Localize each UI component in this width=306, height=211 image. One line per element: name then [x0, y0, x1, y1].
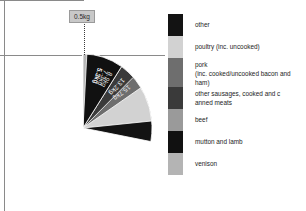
legend-label: venison — [195, 153, 217, 168]
legend-label: beef — [195, 109, 207, 124]
legend-swatch — [168, 109, 183, 131]
legend-label-line2: anned meats — [195, 98, 280, 107]
legend-label: poultry (inc. uncooked) — [195, 36, 260, 51]
legend-label-line1: poultry (inc. uncooked) — [195, 43, 260, 50]
legend-label-line1: beef — [195, 116, 207, 123]
legend-swatch — [168, 131, 183, 153]
pie-chart: 15.7kg13.2kg8.9kg7.3kg5.3kg5.3kg — [13, 53, 153, 203]
legend-label-line1: other — [195, 21, 210, 28]
legend-item[interactable]: other — [168, 14, 304, 36]
legend-swatch — [168, 58, 183, 87]
frame-border-top — [0, 0, 84, 1]
legend: otherpoultry (inc. uncooked)pork(inc. co… — [168, 14, 304, 175]
legend-swatch — [168, 87, 183, 109]
callout-leader-line — [84, 21, 85, 55]
legend-label: other — [195, 14, 210, 29]
frame-border-left-lower — [4, 55, 5, 211]
callout-venison: 0.5kg — [69, 10, 95, 23]
legend-item[interactable]: venison — [168, 153, 304, 175]
legend-swatch — [168, 153, 183, 175]
pie-svg — [13, 53, 153, 203]
legend-label: other sausages, cooked and canned meats — [195, 87, 280, 107]
legend-swatch — [168, 36, 183, 58]
legend-item[interactable]: pork(inc. cooked/uncooked bacon and ham) — [168, 58, 304, 87]
chart-screenshot: 15.7kg13.2kg8.9kg7.3kg5.3kg5.3kg 0.5kg o… — [0, 0, 306, 211]
legend-label-line1: mutton and lamb — [195, 138, 243, 145]
legend-label-line1: other sausages, cooked and c — [195, 90, 280, 97]
legend-item[interactable]: poultry (inc. uncooked) — [168, 36, 304, 58]
legend-label-line2: (inc. cooked/uncooked bacon and ham) — [195, 69, 304, 87]
legend-label-line1: venison — [195, 160, 217, 167]
legend-item[interactable]: beef — [168, 109, 304, 131]
legend-item[interactable]: mutton and lamb — [168, 131, 304, 153]
legend-label: mutton and lamb — [195, 131, 243, 146]
legend-label-line1: pork — [195, 61, 207, 68]
legend-item[interactable]: other sausages, cooked and canned meats — [168, 87, 304, 109]
legend-label: pork(inc. cooked/uncooked bacon and ham) — [195, 58, 304, 87]
legend-swatch — [168, 14, 183, 36]
